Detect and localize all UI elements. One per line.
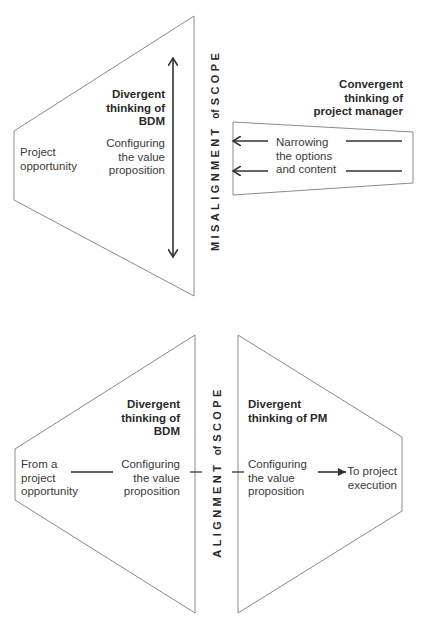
bottom-start-label: From a project opportunity	[21, 458, 78, 499]
top-start-label: Project opportunity	[20, 146, 77, 173]
bottom-bdm-content: Configuring the value proposition	[121, 458, 180, 499]
bottom-bdm-heading: Divergent thinking of BDM	[121, 398, 180, 439]
bottom-end-label: To project execution	[347, 465, 397, 492]
top-pm-content: Narrowing the options and content	[276, 136, 336, 177]
bottom-pm-heading: Divergent thinking of PM	[248, 398, 327, 425]
top-bdm-heading: Divergent thinking of BDM	[106, 88, 165, 129]
top-bdm-content: Configuring the value proposition	[106, 137, 165, 178]
bottom-pm-content: Configuring the value proposition	[248, 458, 307, 499]
misalignment-of-scope-label: MISALIGNMENT ofSCOPE	[209, 51, 221, 251]
top-pm-heading: Convergent thinking of project manager	[314, 78, 403, 119]
alignment-of-scope-label: ALIGNMENT ofSCOPE	[211, 372, 223, 572]
